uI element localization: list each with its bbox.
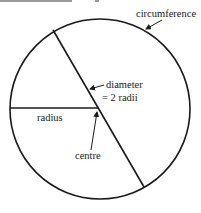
top-caption-fragment <box>0 0 99 2</box>
radius-label: radius <box>37 112 63 123</box>
circumference-label: circumference <box>136 8 196 19</box>
circle-outline <box>10 19 190 199</box>
diameter-equals-label: = 2 radii <box>102 92 138 103</box>
diameter-label: diameter <box>106 79 143 90</box>
centre-arrow-icon <box>91 112 97 150</box>
circumference-arrow-icon <box>146 20 162 29</box>
centre-label: centre <box>75 150 101 161</box>
diameter-arrow-icon <box>90 85 104 89</box>
circle-diagram: circumference diameter = 2 radii radius … <box>0 0 201 213</box>
